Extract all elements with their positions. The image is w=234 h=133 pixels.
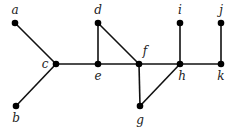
node-h [177, 61, 184, 68]
node-f [136, 61, 143, 68]
node-label-g: g [136, 113, 144, 127]
node-label-e: e [94, 69, 101, 83]
node-label-k: k [217, 69, 224, 83]
edge-a-c [15, 23, 56, 64]
edge-f-g [139, 64, 140, 106]
node-b [13, 103, 20, 110]
node-label-d: d [94, 3, 102, 17]
node-i [177, 20, 184, 27]
labels-group: abcdefghijk [11, 3, 224, 127]
node-label-i: i [178, 3, 182, 17]
node-k [218, 61, 225, 68]
node-g [137, 103, 144, 110]
node-c [53, 61, 60, 68]
node-a [12, 20, 19, 27]
node-label-h: h [178, 69, 186, 83]
node-e [95, 61, 102, 68]
edge-g-h [140, 64, 180, 106]
node-j [218, 20, 225, 27]
node-label-j: j [216, 3, 223, 17]
node-label-a: a [11, 3, 18, 17]
edge-b-c [16, 64, 56, 106]
node-d [95, 20, 102, 27]
node-label-c: c [42, 57, 49, 71]
edge-d-f [98, 23, 139, 64]
node-label-f: f [142, 44, 150, 58]
node-label-b: b [12, 111, 20, 125]
graph-diagram: abcdefghijk [0, 0, 234, 133]
